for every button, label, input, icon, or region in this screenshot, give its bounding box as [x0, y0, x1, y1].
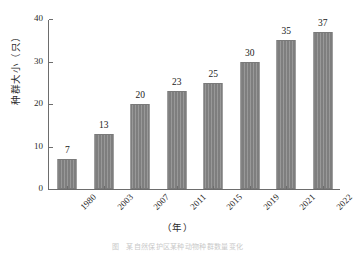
- y-axis-tick-label: 20: [34, 98, 43, 109]
- bar: [94, 134, 113, 189]
- bar: [277, 40, 296, 189]
- bar-slot: 35: [268, 20, 305, 189]
- x-axis-tick-mark: [286, 186, 287, 190]
- x-axis-tick-label: 1980: [79, 192, 99, 212]
- x-axis-tick-label: 2015: [225, 192, 245, 212]
- bar-slot: 25: [195, 20, 232, 189]
- x-axis-tick-label: 2022: [334, 192, 354, 212]
- x-axis-tick-mark: [250, 186, 251, 190]
- x-axis-tick-mark: [177, 186, 178, 190]
- bar: [58, 159, 77, 189]
- y-axis-tick-label: 10: [34, 141, 43, 152]
- x-axis-title: （年）: [0, 222, 355, 234]
- plot-area: 010203040 713202325303537: [48, 20, 340, 190]
- x-axis-tick-mark: [104, 186, 105, 190]
- y-axis-tick-label: 40: [34, 13, 43, 24]
- x-axis-tick-label: 2011: [188, 192, 208, 212]
- y-axis-tick-mark: [49, 189, 53, 190]
- bar-slot: 7: [49, 20, 86, 189]
- bar: [131, 104, 150, 189]
- bar-series: 713202325303537: [49, 20, 340, 189]
- bar-value-label: 30: [245, 48, 255, 59]
- bar-slot: 13: [86, 20, 123, 189]
- bar-value-label: 25: [209, 69, 219, 80]
- bar-slot: 37: [305, 20, 342, 189]
- x-axis-tick-label: 2019: [261, 192, 281, 212]
- bar-slot: 23: [159, 20, 196, 189]
- x-axis-tick-mark: [140, 186, 141, 190]
- y-axis-tick-label: 0: [39, 183, 44, 194]
- x-axis-tick-mark: [323, 186, 324, 190]
- x-axis-line: [48, 189, 340, 190]
- x-axis-tick-mark: [67, 186, 68, 190]
- bar: [167, 91, 186, 189]
- bar: [313, 32, 332, 189]
- x-axis-tick-label: 2007: [152, 192, 172, 212]
- figure-caption: 图 某自然保护区某种动物种群数量变化: [0, 243, 355, 252]
- bar-value-label: 13: [99, 120, 109, 131]
- bar-value-label: 23: [172, 77, 182, 88]
- bar-chart-figure: 种群大小（只） 010203040 713202325303537 198020…: [0, 0, 355, 257]
- bar-value-label: 35: [282, 26, 292, 37]
- y-axis-tick: 0: [48, 189, 54, 190]
- bar-value-label: 7: [65, 145, 70, 156]
- y-axis-tick-label: 30: [34, 56, 43, 67]
- x-axis-tick-label: 2021: [298, 192, 318, 212]
- y-axis-title: 种群大小（只）: [12, 18, 22, 118]
- bar: [204, 83, 223, 189]
- x-axis-tick-label: 2003: [115, 192, 135, 212]
- bar-slot: 20: [122, 20, 159, 189]
- bar: [240, 62, 259, 190]
- x-axis-tick-labels: 19802003200720112015201920212022: [48, 192, 340, 226]
- bar-value-label: 37: [318, 18, 328, 29]
- x-axis-tick-mark: [213, 186, 214, 190]
- bar-slot: 30: [232, 20, 269, 189]
- bar-value-label: 20: [136, 90, 146, 101]
